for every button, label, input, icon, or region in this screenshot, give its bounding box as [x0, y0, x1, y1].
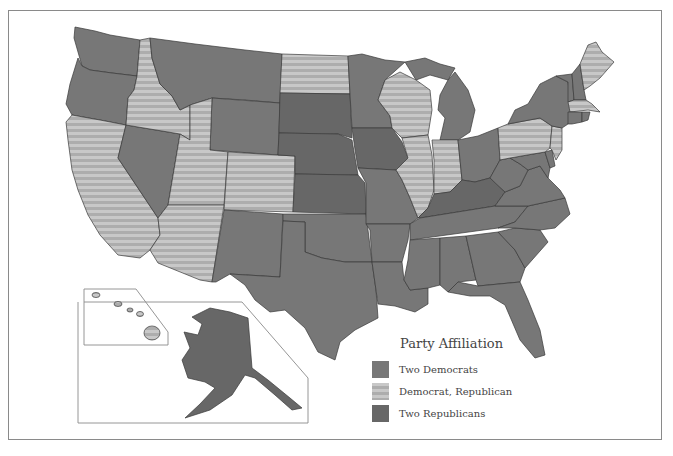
legend-label: Two Republicans [399, 408, 485, 419]
legend-item-two-republicans: Two Republicans [372, 403, 532, 423]
legend-item-two-democrats: Two Democrats [372, 359, 532, 379]
state-new-mexico[interactable] [212, 210, 283, 282]
state-kansas[interactable] [293, 174, 366, 214]
state-hawaii[interactable] [92, 293, 160, 341]
legend-label: Democrat, Republican [399, 386, 512, 397]
state-arkansas[interactable] [366, 224, 410, 262]
us-senate-party-map [0, 0, 673, 456]
legend-swatch-split [372, 383, 389, 400]
state-connecticut[interactable] [568, 112, 582, 124]
state-michigan[interactable] [438, 72, 475, 140]
state-massachusetts[interactable] [568, 100, 600, 112]
legend-label: Two Democrats [399, 364, 478, 375]
state-south-dakota[interactable] [279, 93, 352, 138]
legend-item-split: Democrat, Republican [372, 381, 532, 401]
state-rhode-island[interactable] [582, 112, 590, 122]
legend-swatch-rep [372, 405, 389, 422]
legend: Party Affiliation Two Democrats Democrat… [372, 336, 532, 425]
state-mississippi[interactable] [404, 238, 440, 290]
legend-title: Party Affiliation [400, 336, 532, 351]
state-maine[interactable] [580, 42, 614, 90]
state-wyoming[interactable] [210, 98, 280, 155]
state-alaska[interactable] [182, 308, 302, 418]
state-north-dakota[interactable] [280, 54, 350, 94]
state-colorado[interactable] [224, 152, 295, 212]
state-michigan-upper[interactable] [405, 58, 455, 80]
legend-swatch-dem [372, 361, 389, 378]
state-arizona[interactable] [150, 205, 224, 282]
